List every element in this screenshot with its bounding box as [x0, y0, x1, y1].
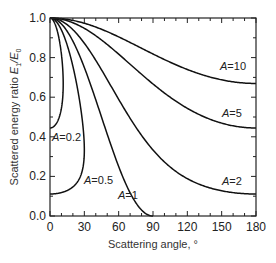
curve-label: A=10	[219, 60, 246, 72]
y-tick-label: 0.6	[29, 90, 46, 104]
y-tick-label: 0.0	[29, 209, 46, 223]
x-tick-label: 60	[112, 220, 126, 234]
x-tick-label: 150	[212, 220, 232, 234]
curve-A-0_5	[50, 18, 84, 194]
y-tick-label: 0.2	[29, 169, 46, 183]
x-tick-label: 30	[78, 220, 92, 234]
x-tick-label: 120	[177, 220, 197, 234]
y-tick-label: 1.0	[29, 11, 46, 25]
curve-label: A=5	[221, 107, 242, 119]
x-tick-label: 90	[146, 220, 160, 234]
y-axis-title: Scattered energy ratio E1/E0	[8, 48, 22, 185]
curve-A-1	[50, 18, 153, 216]
curve-label: A=0.2	[51, 131, 81, 143]
x-tick-label: 180	[246, 220, 266, 234]
curve-label: A=1	[117, 189, 138, 201]
y-tick-label: 0.8	[29, 51, 46, 65]
curve-A-10	[50, 18, 256, 83]
curve-label: A=0.5	[83, 174, 113, 186]
curve-label: A=2	[221, 175, 242, 187]
curve-A-0_2	[50, 18, 63, 128]
axis-ticks: 03060901201501800.00.20.40.60.81.0	[29, 11, 266, 234]
chart: 03060901201501800.00.20.40.60.81.0 A=10A…	[0, 0, 276, 263]
x-tick-label: 0	[47, 220, 54, 234]
y-tick-label: 0.4	[29, 130, 46, 144]
x-axis-title: Scattering angle, °	[108, 238, 198, 250]
